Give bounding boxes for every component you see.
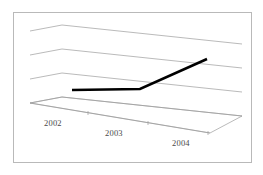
gridline-group: [30, 25, 242, 116]
chart-figure: 2002 2003 2004: [0, 0, 263, 175]
gridline-3: [30, 49, 242, 68]
chart-plot-area: [0, 0, 263, 175]
axis-label-2004: 2004: [172, 138, 190, 148]
axis-label-2002: 2002: [44, 118, 62, 128]
data-series-line: [72, 59, 207, 90]
gridline-1: [30, 97, 242, 116]
gridline-4: [30, 25, 242, 44]
axis-label-2003: 2003: [105, 128, 123, 138]
